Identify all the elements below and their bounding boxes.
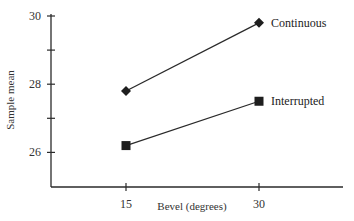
series-label: Interrupted: [271, 94, 324, 108]
y-tick-labels: 262830: [29, 9, 41, 159]
diamond-marker: [121, 86, 131, 96]
square-marker: [122, 141, 131, 150]
diamond-marker: [254, 18, 264, 28]
x-tick-label-30: 30: [253, 197, 265, 211]
series-layer: ContinuousInterrupted: [121, 16, 327, 150]
y-tick-label: 30: [29, 9, 41, 23]
series-continuous: Continuous: [121, 16, 327, 96]
y-tick-label: 28: [29, 77, 41, 91]
series-line: [126, 101, 259, 145]
x-tick-label-15: 15: [120, 197, 132, 211]
interaction-plot: 262830 15 30 Bevel (degrees) Sample mean…: [0, 0, 354, 221]
series-line: [126, 23, 259, 91]
y-tick-label: 26: [29, 145, 41, 159]
square-marker: [255, 97, 264, 106]
y-axis-title: Sample mean: [4, 70, 16, 130]
x-axis-title: Bevel (degrees): [157, 200, 227, 213]
series-label: Continuous: [271, 16, 327, 30]
series-interrupted: Interrupted: [122, 94, 325, 150]
